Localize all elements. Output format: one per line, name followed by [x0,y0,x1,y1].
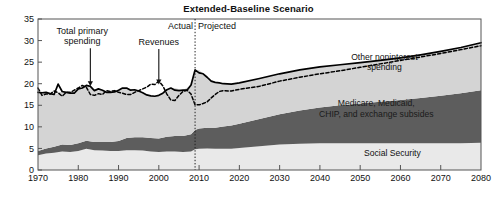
annotation-label-total-primary-spending: spending [64,36,101,46]
y-tick-label: 25 [24,57,34,67]
x-tick-label: 1980 [68,173,88,183]
annotation-label-total-primary-spending: Total primary [57,26,109,36]
x-tick-label: 1970 [28,173,48,183]
y-tick-label: 15 [24,100,34,110]
band-label-other-noninterest: spending [367,62,402,72]
band-label-social-security: Social Security [364,148,422,158]
x-tick-label: 2050 [350,173,370,183]
band-label-other-noninterest: Other noninterest [351,52,418,62]
y-tick-label: 20 [24,79,34,89]
x-tick-label: 2070 [431,173,451,183]
band-label-health-programs: Medicare, Medicaid, [338,98,415,108]
chart-canvas: ActualProjected0510152025303519701980199… [0,0,497,199]
x-tick-label: 2030 [270,173,290,183]
band-label-health-programs: CHIP, and exchange subsides [319,109,434,119]
x-tick-label: 2060 [390,173,410,183]
chart-figure: Extended-Baseline Scenario ActualProject… [0,0,497,199]
x-tick-label: 2010 [189,173,209,183]
x-tick-label: 1990 [109,173,129,183]
y-tick-label: 10 [24,122,34,132]
label-actual: Actual [168,21,193,31]
x-tick-label: 2080 [471,173,491,183]
y-tick-label: 5 [29,144,34,154]
x-tick-label: 2000 [149,173,169,183]
y-tick-label: 30 [24,36,34,46]
x-tick-label: 2020 [229,173,249,183]
y-tick-label: 35 [24,14,34,24]
x-tick-label: 2040 [310,173,330,183]
label-projected: Projected [198,21,236,31]
annotation-label-revenues: Revenues [139,37,180,47]
